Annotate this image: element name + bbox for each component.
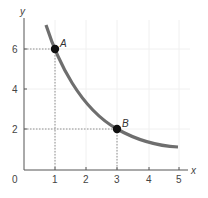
y-axis-label: y	[19, 6, 26, 17]
tick-y-2: 2	[12, 124, 18, 135]
tick-y-6: 6	[12, 44, 18, 55]
tick-x-3: 3	[114, 174, 120, 185]
tick-x-2: 2	[83, 174, 89, 185]
axes	[24, 18, 188, 170]
tick-y-4: 4	[12, 84, 18, 95]
point-a	[51, 45, 59, 53]
point-b	[113, 125, 121, 133]
tick-x-1: 1	[52, 174, 58, 185]
point-a-label: A	[59, 38, 67, 49]
tick-x-5: 5	[176, 174, 182, 185]
tick-x-0: 0	[12, 174, 18, 185]
guide-lines	[24, 49, 117, 170]
point-b-label: B	[122, 118, 129, 129]
tick-x-4: 4	[146, 174, 152, 185]
chart: A B y x 0 1 2 3 4 5 2 4 6	[0, 0, 208, 198]
x-axis-label: x	[190, 165, 197, 176]
